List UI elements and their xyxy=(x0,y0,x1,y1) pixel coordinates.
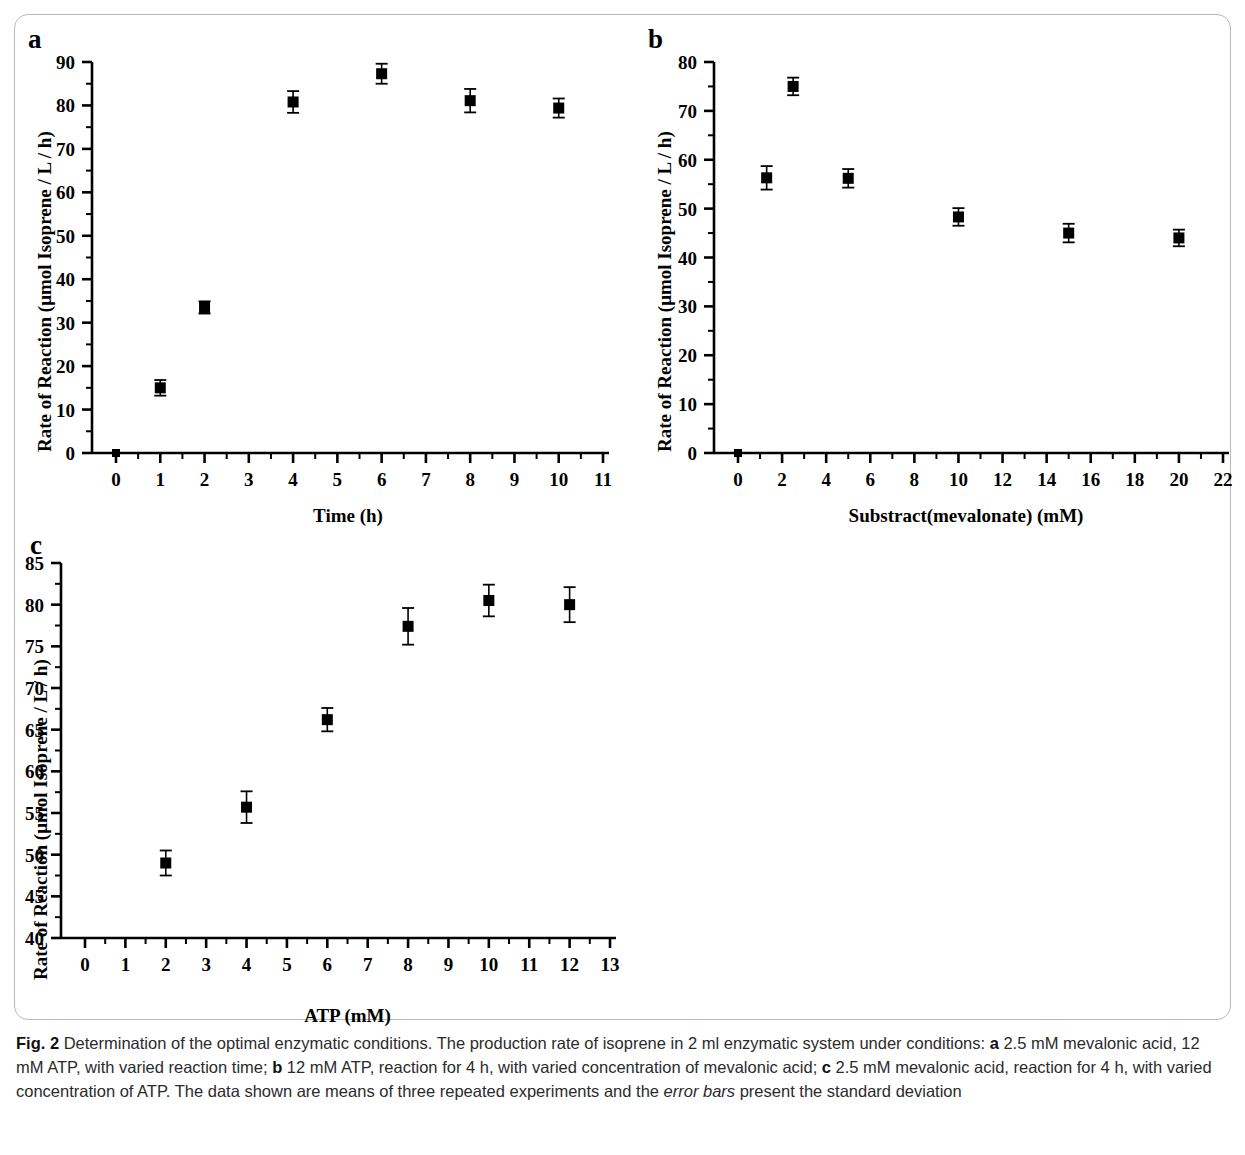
x-tick-label: 9 xyxy=(510,469,520,490)
data-point xyxy=(241,791,253,823)
x-tick-label: 2 xyxy=(777,469,787,490)
x-tick-label: 13 xyxy=(601,954,620,975)
y-tick-label: 30 xyxy=(56,313,75,334)
x-tick-label: 10 xyxy=(479,954,498,975)
y-tick-label: 40 xyxy=(56,269,75,290)
data-point xyxy=(553,98,565,117)
x-tick-label: 1 xyxy=(121,954,131,975)
data-point xyxy=(154,380,166,396)
x-tick-label: 20 xyxy=(1169,469,1188,490)
x-tick-label: 12 xyxy=(560,954,579,975)
data-point xyxy=(199,301,211,313)
x-tick-label: 5 xyxy=(333,469,343,490)
y-tick-label: 85 xyxy=(25,553,44,574)
x-tick-label: 3 xyxy=(244,469,254,490)
caption-figure-label: Fig. 2 xyxy=(16,1034,59,1052)
y-tick-label: 90 xyxy=(56,52,75,73)
chart-panel-b: b 024681012141618202201020304050607080 R… xyxy=(620,0,1245,530)
x-tick-label: 6 xyxy=(323,954,333,975)
x-tick-label: 8 xyxy=(910,469,920,490)
y-tick-label: 20 xyxy=(56,356,75,377)
y-tick-label: 40 xyxy=(678,248,697,269)
data-point xyxy=(287,91,299,113)
x-tick-label: 3 xyxy=(201,954,211,975)
y-tick-label: 80 xyxy=(678,52,697,73)
plot-area-a: 012345678910110102030405060708090 xyxy=(0,0,630,530)
y-tick-label: 20 xyxy=(678,345,697,366)
data-point xyxy=(160,851,172,876)
plot-area-c: 01234567891011121340455055606570758085 xyxy=(0,520,650,1032)
data-point xyxy=(842,169,854,188)
x-tick-label: 14 xyxy=(1037,469,1057,490)
y-tick-label: 80 xyxy=(56,95,75,116)
x-tick-label: 10 xyxy=(949,469,968,490)
caption-text-b: 12 mM ATP, reaction for 4 h, with varied… xyxy=(282,1058,822,1076)
y-tick-label: 70 xyxy=(56,139,75,160)
x-tick-label: 8 xyxy=(465,469,475,490)
y-tick-label: 50 xyxy=(56,226,75,247)
y-tick-label: 0 xyxy=(66,443,76,464)
caption-intro: Determination of the optimal enzymatic c… xyxy=(59,1034,990,1052)
x-tick-label: 4 xyxy=(242,954,252,975)
x-tick-label: 4 xyxy=(288,469,298,490)
y-tick-label: 60 xyxy=(678,150,697,171)
x-tick-label: 11 xyxy=(520,954,538,975)
caption-marker-a: a xyxy=(990,1034,999,1052)
x-tick-label: 12 xyxy=(993,469,1012,490)
y-axis-title-a: Rate of Reaction (μmol Isoprene / L / h) xyxy=(34,131,56,452)
data-point xyxy=(112,449,120,457)
y-tick-label: 30 xyxy=(678,296,697,317)
data-point xyxy=(483,585,495,617)
y-tick-label: 0 xyxy=(688,443,698,464)
x-tick-label: 6 xyxy=(866,469,876,490)
data-point xyxy=(402,608,414,645)
x-tick-label: 1 xyxy=(156,469,166,490)
chart-panel-a: a 012345678910110102030405060708090 Rate… xyxy=(0,0,630,530)
x-tick-label: 0 xyxy=(80,954,90,975)
data-point xyxy=(1063,224,1075,243)
data-point xyxy=(564,587,576,622)
x-tick-label: 0 xyxy=(733,469,743,490)
caption-tail: present the standard deviation xyxy=(735,1082,962,1100)
x-tick-label: 7 xyxy=(363,954,373,975)
data-point xyxy=(734,449,742,457)
y-tick-label: 10 xyxy=(56,400,75,421)
x-axis-title-c: ATP (mM) xyxy=(85,1005,610,1027)
y-tick-label: 60 xyxy=(56,182,75,203)
x-tick-label: 4 xyxy=(821,469,831,490)
data-point xyxy=(464,89,476,112)
x-tick-label: 0 xyxy=(111,469,121,490)
caption-marker-c: c xyxy=(822,1058,831,1076)
data-point xyxy=(761,166,773,189)
x-tick-label: 2 xyxy=(200,469,210,490)
x-tick-label: 11 xyxy=(594,469,612,490)
y-tick-label: 50 xyxy=(678,199,697,220)
x-tick-label: 16 xyxy=(1081,469,1100,490)
x-tick-label: 2 xyxy=(161,954,171,975)
y-tick-label: 70 xyxy=(678,101,697,122)
x-axis-title-b: Substract(mevalonate) (mM) xyxy=(710,505,1222,527)
x-tick-label: 10 xyxy=(549,469,568,490)
figure-caption: Fig. 2 Determination of the optimal enzy… xyxy=(16,1032,1226,1104)
y-tick-label: 10 xyxy=(678,394,697,415)
x-tick-label: 8 xyxy=(403,954,413,975)
x-tick-label: 18 xyxy=(1125,469,1144,490)
data-point xyxy=(321,708,333,731)
x-tick-label: 9 xyxy=(444,954,454,975)
data-point xyxy=(1173,230,1185,247)
y-tick-label: 80 xyxy=(25,595,44,616)
x-tick-label: 6 xyxy=(377,469,387,490)
plot-area-b: 024681012141618202201020304050607080 xyxy=(620,0,1245,530)
x-tick-label: 7 xyxy=(421,469,431,490)
data-point xyxy=(787,78,799,96)
data-point xyxy=(952,208,964,226)
x-tick-label: 22 xyxy=(1214,469,1233,490)
chart-panel-c: c 01234567891011121340455055606570758085… xyxy=(0,520,650,1032)
x-tick-label: 5 xyxy=(282,954,292,975)
y-tick-label: 75 xyxy=(25,636,44,657)
data-point xyxy=(376,64,388,84)
y-axis-title-b: Rate of Reaction (μmol Isoprene / L / h) xyxy=(654,131,676,452)
caption-error-bars-emphasis: error bars xyxy=(664,1082,736,1100)
caption-marker-b: b xyxy=(272,1058,282,1076)
y-axis-title-c: Rate of Reaction (μmol Isoprene / L / h) xyxy=(30,659,52,980)
